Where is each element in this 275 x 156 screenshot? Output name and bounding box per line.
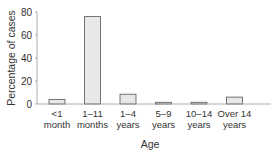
x-axis-label: Age — [141, 138, 160, 150]
x-tick-label: Over 14 — [218, 108, 252, 119]
x-tick-label: month — [44, 119, 70, 130]
x-tick-label: 1–11 — [82, 108, 102, 119]
bar-chart: 020406080 <1month1–11months1–4years5–9ye… — [0, 0, 275, 156]
y-tick-label: 40 — [21, 53, 33, 64]
y-tick-label: 0 — [26, 99, 32, 110]
y-axis-label: Percentage of cases — [5, 10, 17, 106]
x-tick-label: years — [116, 119, 139, 130]
x-tick-label: years — [187, 119, 210, 130]
x-tick-label: years — [152, 119, 175, 130]
x-tick-label: <1 — [52, 108, 63, 119]
x-tick-label: years — [223, 119, 246, 130]
bar — [120, 94, 136, 104]
y-tick-label: 60 — [21, 30, 33, 41]
bar — [49, 99, 65, 104]
x-tick-label: 5–9 — [156, 108, 172, 119]
x-axis: <1month1–11months1–4years5–9years10–14ye… — [37, 104, 271, 130]
x-tick-label: months — [77, 119, 108, 130]
y-tick-label: 80 — [21, 7, 33, 18]
x-tick-label: 1–4 — [120, 108, 136, 119]
y-axis: 020406080 — [21, 7, 37, 110]
bar — [227, 97, 243, 104]
y-tick-label: 20 — [21, 76, 33, 87]
bar — [85, 17, 101, 104]
x-tick-label: 10–14 — [186, 108, 212, 119]
bars — [49, 17, 243, 104]
